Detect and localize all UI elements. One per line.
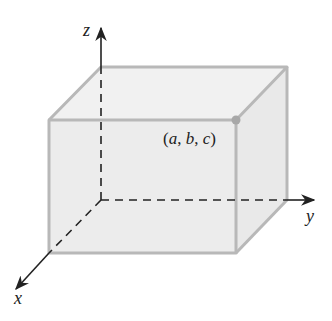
point-marker xyxy=(232,116,241,125)
x-axis xyxy=(16,253,49,289)
point-label: (a, b, c) xyxy=(163,129,216,148)
rectangular-box xyxy=(49,67,287,253)
x-axis-label: x xyxy=(13,288,22,308)
z-axis-label: z xyxy=(82,20,90,40)
coordinate-box-diagram: z y x (a, b, c) xyxy=(0,0,332,321)
y-axis-label: y xyxy=(304,206,314,226)
